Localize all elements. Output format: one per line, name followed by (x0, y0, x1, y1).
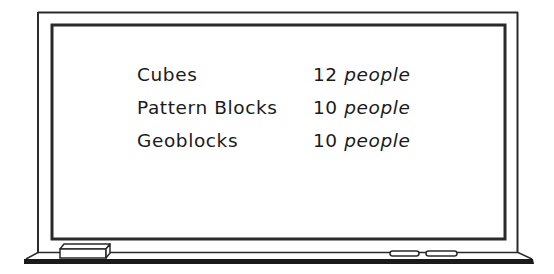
tally-count: 10 people (313, 130, 411, 151)
tally-count: 10 people (313, 97, 411, 118)
tally-number: 10 (313, 97, 338, 118)
tally-row: Geoblocks 10 people (0, 130, 554, 160)
tally-label: Pattern Blocks (137, 97, 278, 118)
tally-count: 12 people (313, 64, 411, 85)
tally-number: 12 (313, 64, 338, 85)
tally-number: 10 (313, 130, 338, 151)
tally-row: Pattern Blocks 10 people (0, 97, 554, 127)
whiteboard-content: Cubes 12 people Pattern Blocks 10 people… (0, 0, 554, 274)
tally-unit: people (344, 130, 410, 151)
tally-unit: people (344, 64, 410, 85)
whiteboard-scene: Cubes 12 people Pattern Blocks 10 people… (0, 0, 554, 274)
tally-label: Geoblocks (137, 130, 238, 151)
tally-unit: people (344, 97, 410, 118)
tally-row: Cubes 12 people (0, 64, 554, 94)
tally-label: Cubes (137, 64, 197, 85)
